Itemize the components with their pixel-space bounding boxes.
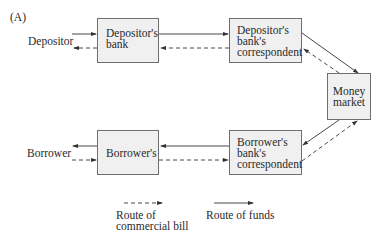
depositors-correspondent-box: Depositor's bank's correspondent — [229, 18, 302, 63]
depositors-bank-box: Depositor's bank — [97, 18, 159, 63]
money-market-flow-diagram: (A) Depositor Depositor's bank Depositor… — [0, 0, 383, 242]
panel-label: (A) — [10, 12, 26, 23]
borrowers-correspondent-box: Borrower's bank's correspondent — [229, 130, 302, 175]
legend-bill-label: Route of commercial bill — [116, 210, 189, 232]
money-market-box: Money market — [327, 73, 371, 120]
borrowers-bank-label: Borrower's — [106, 148, 158, 159]
depositor-label: Depositor — [28, 36, 73, 47]
legend-funds-label: Route of funds — [206, 210, 274, 221]
money-market-label: Money market — [328, 86, 370, 108]
arrow-bill-money-market-to-correspondent — [304, 49, 339, 73]
borrower-label: Borrower — [27, 148, 71, 159]
arrow-funds-money-market-to-borrower-correspondent — [303, 120, 339, 145]
depositors-bank-label: Depositor's bank — [106, 28, 158, 50]
depositors-correspondent-label: Depositor's bank's correspondent — [237, 25, 301, 58]
borrowers-bank-box: Borrower's — [97, 130, 159, 175]
borrowers-correspondent-label: Borrower's bank's correspondent — [237, 137, 301, 170]
